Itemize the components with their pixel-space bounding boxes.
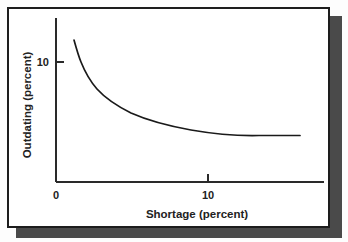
line-chart: 10 0 10 Outdating (percent) Shortage (pe…	[9, 9, 328, 226]
figure-frame: 10 0 10 Outdating (percent) Shortage (pe…	[7, 7, 330, 228]
x-axis-title: Shortage (percent)	[146, 208, 248, 220]
y-axis-tick-label-10: 10	[37, 56, 49, 68]
figure-root: 10 0 10 Outdating (percent) Shortage (pe…	[0, 0, 348, 242]
y-axis-title: Outdating (percent)	[21, 51, 33, 158]
x-axis-tick-label-10: 10	[202, 189, 214, 201]
x-axis-tick-label-0: 0	[53, 189, 59, 201]
data-curve-outdating	[74, 40, 300, 136]
